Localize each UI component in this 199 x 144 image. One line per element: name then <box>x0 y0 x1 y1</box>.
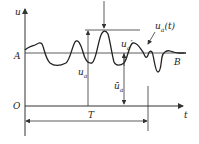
mean-sub: a <box>120 86 124 93</box>
end-label: B <box>174 58 181 67</box>
signal-label: ua(t) <box>155 22 175 33</box>
y-axis-label: u <box>15 8 21 17</box>
amplitude-sub: a <box>84 72 88 79</box>
x-axis-label: t <box>184 111 188 120</box>
signal-leader <box>148 32 155 44</box>
mean-line-label: A <box>14 52 21 61</box>
fluct-label: ua′ <box>121 40 132 51</box>
origin-label: O <box>13 102 20 111</box>
amplitude-label: ua <box>78 68 87 79</box>
signal-arg: (t) <box>164 21 175 31</box>
period-label: T <box>88 111 94 120</box>
fluctuating-signal-diagram: u A O t T B ua(t) ua ūa ua′ <box>0 0 199 144</box>
signal-curve <box>25 31 186 72</box>
mean-label: ūa <box>114 82 123 93</box>
fluct-prime: ′ <box>130 39 132 49</box>
